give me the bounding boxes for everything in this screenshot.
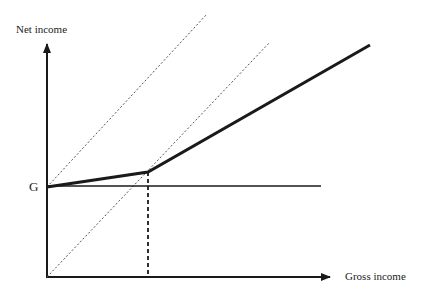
45-degree-line-from-G (47, 14, 207, 187)
intercept-label: G (29, 179, 38, 195)
diagram-canvas (0, 0, 424, 298)
net-income-schedule (47, 45, 370, 187)
y-axis-label: Net income (16, 23, 67, 35)
x-axis-label: Gross income (345, 270, 406, 282)
45-degree-line-from-origin (47, 42, 270, 277)
